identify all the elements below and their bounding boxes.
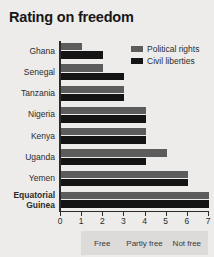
bar-civil-liberties xyxy=(61,158,146,165)
category-label: Equatorial Guinea xyxy=(0,191,55,210)
bar-row: Uganda xyxy=(0,147,214,168)
bar-row: Equatorial Guinea xyxy=(0,190,214,211)
legend-item-political-rights: Political rights xyxy=(131,44,211,54)
category-label: Uganda xyxy=(25,153,55,163)
x-tick-label: 3 xyxy=(121,216,126,226)
legend-label-civil-liberties: Civil liberties xyxy=(147,56,195,66)
band-label: Partly free xyxy=(123,231,165,255)
bar-political-rights xyxy=(61,171,188,178)
x-tick-label: 4 xyxy=(142,216,147,226)
bar-civil-liberties xyxy=(61,200,209,207)
x-tick-label: 0 xyxy=(58,216,63,226)
bar-row: Tanzania xyxy=(0,84,214,105)
bar-political-rights xyxy=(61,43,82,50)
category-label: Nigeria xyxy=(28,111,55,121)
bar-civil-liberties xyxy=(61,136,146,143)
band-label: Free xyxy=(81,231,123,255)
category-label: Ghana xyxy=(29,47,55,57)
x-axis: 01234567 FreePartly freeNot free xyxy=(0,211,214,257)
bar-civil-liberties xyxy=(61,179,188,186)
legend-label-political-rights: Political rights xyxy=(147,44,199,54)
bar-political-rights xyxy=(61,64,103,71)
bar-political-rights xyxy=(61,107,146,114)
bar-political-rights xyxy=(61,149,167,156)
category-label: Yemen xyxy=(29,174,55,184)
legend-swatch-icon-political-rights xyxy=(131,46,143,52)
x-tick-label: 2 xyxy=(100,216,105,226)
bar-civil-liberties xyxy=(61,73,124,80)
bar-political-rights xyxy=(61,128,146,135)
legend: Political rights Civil liberties xyxy=(131,44,211,68)
rating-on-freedom-chart: Rating on freedom GhanaSenegalTanzaniaNi… xyxy=(0,0,214,257)
bar-row: Yemen xyxy=(0,169,214,190)
legend-swatch-icon-civil-liberties xyxy=(131,58,143,64)
bar-political-rights xyxy=(61,86,124,93)
category-bands: FreePartly freeNot free xyxy=(0,231,214,257)
bar-row: Nigeria xyxy=(0,105,214,126)
chart-title: Rating on freedom xyxy=(9,9,134,25)
category-label: Senegal xyxy=(24,68,55,78)
category-label: Kenya xyxy=(31,132,55,142)
legend-item-civil-liberties: Civil liberties xyxy=(131,56,211,66)
bar-row: Kenya xyxy=(0,126,214,147)
bar-civil-liberties xyxy=(61,94,124,101)
bar-political-rights xyxy=(61,192,209,199)
x-tick-label: 5 xyxy=(163,216,168,226)
x-tick-label: 7 xyxy=(206,216,211,226)
x-tick-label: 1 xyxy=(79,216,84,226)
bar-civil-liberties xyxy=(61,51,103,58)
band-label: Not free xyxy=(166,231,208,255)
category-label: Tanzania xyxy=(21,89,55,99)
x-tick-label: 6 xyxy=(184,216,189,226)
bar-civil-liberties xyxy=(61,115,146,122)
